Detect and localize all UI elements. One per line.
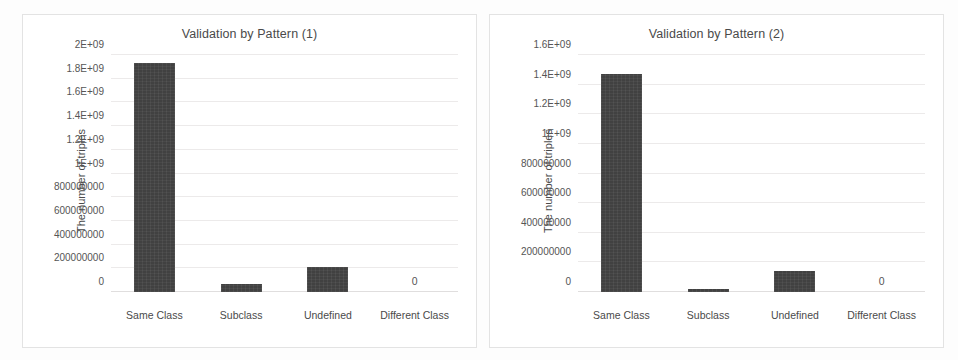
y-axis-tick-label: 1E+09 (542, 127, 571, 138)
x-axis-tick-label: Undefined (752, 309, 839, 321)
bar-slot (752, 55, 839, 292)
x-axis-tick-label: Different Class (838, 309, 925, 321)
y-axis-tick-label: 1.6E+09 (66, 86, 104, 97)
y-axis-tick-label: 1.4E+09 (66, 110, 104, 121)
y-axis-tick-label: 1.2E+09 (66, 133, 104, 144)
y-axis-tick-label: 200000000 (521, 246, 571, 257)
bar-slot (578, 55, 665, 292)
y-axis-tick-label: 600000000 (54, 204, 104, 215)
y-axis-tick-label: 1.4E+09 (533, 68, 571, 79)
bar-slot (285, 55, 372, 292)
x-axis-tick-label: Same Class (578, 309, 665, 321)
y-axis-tick-label: 1E+09 (75, 157, 104, 168)
y-axis-tick-label: 800000000 (521, 157, 571, 168)
bar-series: 0 (111, 55, 458, 292)
chart-panel-validation-by-pattern-1: Validation by Pattern (1) The number of … (22, 14, 477, 348)
y-axis-tick-label: 0 (565, 276, 571, 287)
y-axis-tick-label: 1.2E+09 (533, 98, 571, 109)
y-axis-tick-label: 400000000 (521, 216, 571, 227)
plot-area: 02000000004000000006000000008000000001E+… (578, 55, 925, 292)
y-axis-tick-label: 400000000 (54, 228, 104, 239)
bar[interactable] (134, 63, 175, 292)
bar[interactable] (601, 74, 642, 292)
chart-panel-validation-by-pattern-2: Validation by Pattern (2) The number of … (489, 14, 944, 348)
bar[interactable] (307, 267, 348, 292)
x-axis-tick-label: Same Class (111, 309, 198, 321)
bar-slot (665, 55, 752, 292)
x-axis-labels: Same ClassSubclassUndefinedDifferent Cla… (578, 309, 925, 321)
x-axis-labels: Same ClassSubclassUndefinedDifferent Cla… (111, 309, 458, 321)
y-axis-tick-label: 800000000 (54, 181, 104, 192)
y-axis-tick-label: 1.8E+09 (66, 62, 104, 73)
y-axis-tick-label: 200000000 (54, 252, 104, 263)
bar-value-label: 0 (879, 275, 885, 287)
figure-container: Validation by Pattern (1) The number of … (0, 0, 958, 360)
x-axis-tick-label: Different Class (371, 309, 458, 321)
bar-slot (198, 55, 285, 292)
bar-slot: 0 (371, 55, 458, 292)
bar-series: 0 (578, 55, 925, 292)
y-axis-tick-label: 2E+09 (75, 39, 104, 50)
bar-value-label: 0 (412, 275, 418, 287)
plot-area: 02000000004000000006000000008000000001E+… (111, 55, 458, 292)
bar-slot (111, 55, 198, 292)
y-axis-tick-label: 0 (98, 276, 104, 287)
x-axis-tick-label: Undefined (285, 309, 372, 321)
x-axis-tick-label: Subclass (665, 309, 752, 321)
y-axis-tick-label: 1.6E+09 (533, 39, 571, 50)
x-axis-tick-label: Subclass (198, 309, 285, 321)
bar[interactable] (688, 289, 729, 292)
bar-slot: 0 (838, 55, 925, 292)
y-axis-tick-label: 600000000 (521, 187, 571, 198)
bar[interactable] (221, 284, 262, 292)
bar[interactable] (774, 271, 815, 292)
